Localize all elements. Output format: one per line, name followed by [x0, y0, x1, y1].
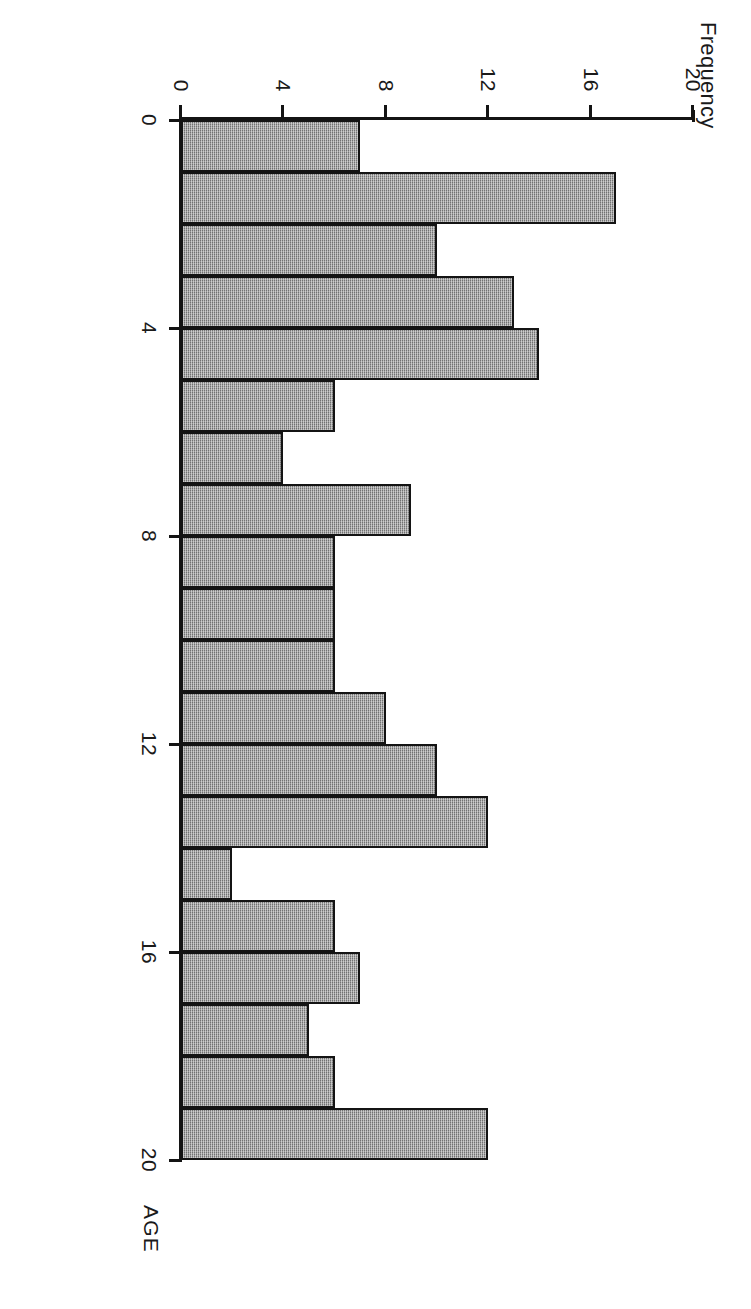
y-axis-tick: [179, 105, 182, 118]
histogram-bar: [181, 224, 437, 276]
histogram-bar: [181, 1004, 309, 1056]
y-axis-tick: [281, 105, 284, 118]
y-axis-tick-label: 8: [376, 46, 397, 92]
rotated-figure-wrapper: Frequency AGE 048121620 048121620: [0, 0, 751, 1309]
histogram-bar: [181, 952, 360, 1004]
x-axis-label: AGE: [139, 1205, 163, 1253]
plot-area: [181, 120, 693, 1160]
histogram-bar: [181, 328, 539, 380]
y-axis-tick-label: 12: [478, 46, 499, 92]
y-axis-tick: [384, 105, 387, 118]
histogram-bar: [181, 1056, 335, 1108]
x-axis-tick-label: 16: [137, 922, 161, 982]
histogram-bar: [181, 692, 386, 744]
histogram-bar: [181, 536, 335, 588]
histogram-bar: [181, 484, 411, 536]
histogram-bar: [181, 588, 335, 640]
histogram-bar: [181, 848, 232, 900]
x-axis-tick-label: 4: [137, 298, 161, 358]
x-axis-tick-label: 8: [137, 506, 161, 566]
y-axis-tick: [691, 105, 694, 118]
histogram-bar: [181, 900, 335, 952]
histogram-figure: Frequency AGE 048121620 048121620: [0, 0, 751, 1309]
y-axis-tick-label: 16: [581, 46, 602, 92]
y-axis-tick-label: 4: [273, 46, 294, 92]
y-axis-tick: [486, 105, 489, 118]
histogram-bar: [181, 744, 437, 796]
histogram-bar: [181, 796, 488, 848]
x-axis-tick-label: 12: [137, 714, 161, 774]
histogram-bar: [181, 120, 360, 172]
x-axis-tick-label: 20: [137, 1130, 161, 1190]
histogram-bar: [181, 432, 283, 484]
histogram-bar: [181, 640, 335, 692]
y-axis-tick: [589, 105, 592, 118]
y-axis-tick-label: 20: [683, 46, 704, 92]
histogram-bar: [181, 172, 616, 224]
histogram-bar: [181, 276, 514, 328]
histogram-bar: [181, 1108, 488, 1160]
y-axis-tick-label: 0: [171, 46, 192, 92]
x-axis-tick-label: 0: [137, 90, 161, 150]
histogram-bar: [181, 380, 335, 432]
